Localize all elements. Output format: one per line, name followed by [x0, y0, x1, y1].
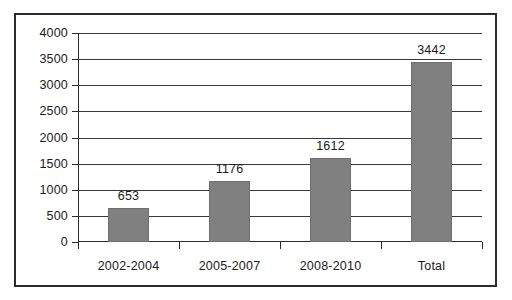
y-axis-tick	[72, 111, 78, 112]
x-axis-category-label: 2005-2007	[199, 259, 261, 273]
bar-value-label: 3442	[417, 43, 446, 57]
y-axis-tick-label: 2500	[39, 104, 68, 118]
bar[interactable]	[209, 181, 251, 242]
x-axis-tick	[280, 242, 281, 249]
x-axis-tick	[482, 242, 483, 249]
y-axis-tick	[72, 33, 78, 34]
x-axis-tick	[78, 242, 79, 249]
chart-frame: 40003500300025002000150010005000 6531176…	[14, 13, 497, 287]
y-axis-tick-label: 0	[61, 235, 68, 249]
y-axis-tick-label: 1000	[39, 183, 68, 197]
x-axis-category-label: 2002-2004	[98, 259, 160, 273]
plot-area: 40003500300025002000150010005000 6531176…	[78, 33, 482, 242]
y-axis-tick-label: 3500	[39, 52, 68, 66]
bar-value-label: 1612	[316, 139, 345, 153]
y-axis-tick-label: 500	[47, 209, 68, 223]
y-axis-line	[78, 33, 79, 242]
y-axis-tick	[72, 85, 78, 86]
x-axis-tick	[381, 242, 382, 249]
bar-value-label: 1176	[216, 162, 244, 176]
x-axis-tick	[179, 242, 180, 249]
x-axis-category-label: Total	[418, 259, 445, 273]
y-axis-tick-label: 1500	[39, 157, 68, 171]
y-axis-tick	[72, 190, 78, 191]
gridline	[78, 59, 482, 60]
bar-value-label: 653	[118, 189, 139, 203]
bar[interactable]	[310, 158, 352, 242]
y-axis-tick-label: 2000	[39, 131, 68, 145]
y-axis-tick	[72, 164, 78, 165]
gridline	[78, 33, 482, 34]
y-axis-tick	[72, 216, 78, 217]
y-axis-tick-label: 4000	[39, 26, 68, 40]
bar[interactable]	[411, 62, 453, 242]
y-axis-tick	[72, 59, 78, 60]
y-axis-tick-label: 3000	[39, 78, 68, 92]
y-axis-tick	[72, 138, 78, 139]
x-axis-category-label: 2008-2010	[300, 259, 362, 273]
bar[interactable]	[108, 208, 150, 242]
